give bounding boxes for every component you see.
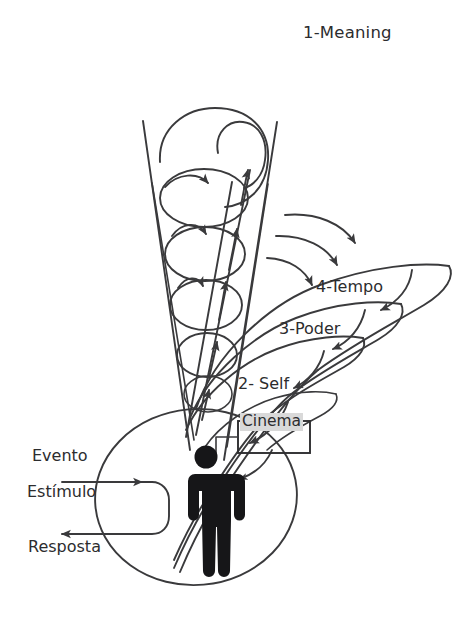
diagram-canvas: 1-Meaning 4-Tempo 3-Poder 2- Self Cinema… — [0, 0, 474, 636]
funnel-axis-lines — [186, 170, 250, 437]
funnel-down-arrows — [165, 176, 208, 288]
sweep-arrows-top — [267, 215, 355, 285]
funnel-top-loop — [160, 108, 268, 207]
label-resposta: Resposta — [28, 539, 101, 555]
label-poder: 3-Poder — [279, 321, 340, 337]
label-meaning: 1-Meaning — [303, 25, 392, 42]
label-evento: Evento — [32, 448, 88, 464]
label-tempo: 4-Tempo — [316, 279, 383, 295]
label-cinema: Cinema — [240, 413, 303, 431]
person-pictogram — [188, 446, 245, 578]
label-estimulo: Estímulo — [27, 484, 96, 500]
label-self: 2- Self — [238, 376, 289, 392]
